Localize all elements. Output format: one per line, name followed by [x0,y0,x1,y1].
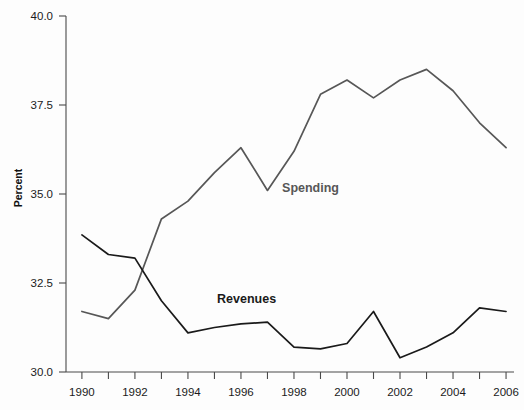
y-tick-label: 40.0 [31,10,53,22]
y-axis-ticks: 30.032.535.037.540.0 [31,10,66,378]
x-tick-label: 1998 [281,386,307,398]
series-line-revenues [82,235,506,358]
y-tick-label: 37.5 [31,99,53,111]
series-inline-labels: SpendingRevenues [217,181,339,306]
x-tick-label: 1996 [228,386,254,398]
chart-container: 30.032.535.037.540.0 1990199219941996199… [0,0,524,410]
line-chart: 30.032.535.037.540.0 1990199219941996199… [0,0,524,410]
y-tick-label: 30.0 [31,366,53,378]
y-tick-label: 35.0 [31,188,53,200]
series-label-revenues: Revenues [217,292,276,306]
series-label-spending: Spending [282,181,339,195]
y-axis-title: Percent [12,168,24,207]
y-tick-label: 32.5 [31,277,53,289]
x-tick-label: 2002 [387,386,413,398]
x-tick-label: 1994 [175,386,201,398]
x-tick-label: 2006 [493,386,519,398]
x-tick-label: 1992 [122,386,148,398]
series-lines [82,69,506,357]
x-tick-label: 2004 [440,386,466,398]
x-axis-ticks: 199019921994199619982000200220042006 [69,372,519,398]
x-tick-label: 2000 [334,386,360,398]
x-tick-label: 1990 [69,386,95,398]
